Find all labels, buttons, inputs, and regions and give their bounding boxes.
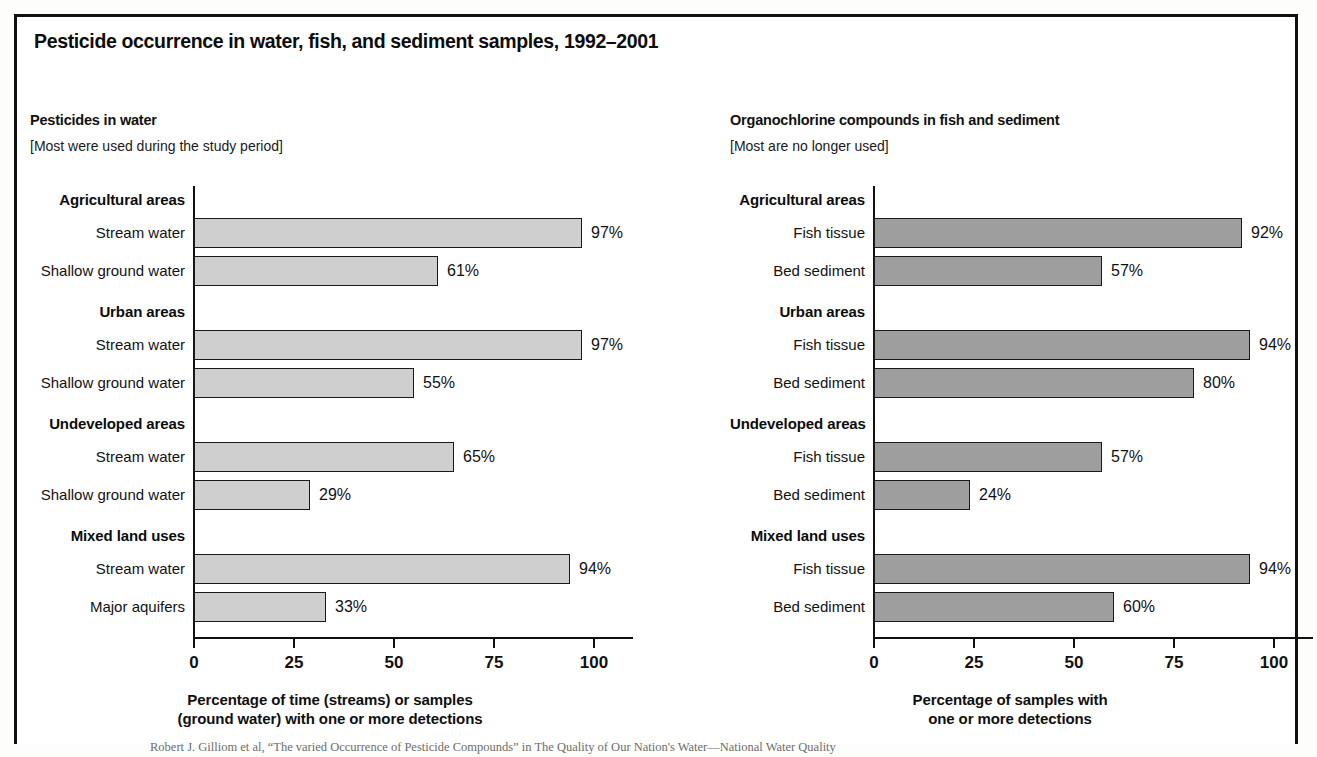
bar — [874, 554, 1250, 584]
bar — [194, 218, 582, 248]
bar-value-label: 97% — [591, 224, 623, 242]
chart-title: Organochlorine compounds in fish and sed… — [730, 112, 1059, 128]
bar-value-label: 24% — [979, 486, 1011, 504]
bar-value-label: 57% — [1111, 448, 1143, 466]
bar-group-label: Urban areas — [30, 303, 185, 320]
bar-value-label: 33% — [335, 598, 367, 616]
x-axis-tick-label: 50 — [385, 653, 404, 673]
bar — [194, 554, 570, 584]
bar-row-label: Shallow ground water — [30, 374, 185, 391]
bar-group-label: Urban areas — [730, 303, 865, 320]
bar-row-label: Fish tissue — [730, 560, 865, 577]
bar-row-label: Stream water — [30, 336, 185, 353]
bar-group-label: Agricultural areas — [30, 191, 185, 208]
x-axis-tick — [593, 639, 595, 648]
bar-row-label: Fish tissue — [730, 448, 865, 465]
x-axis-caption-line: Percentage of samples with — [740, 690, 1280, 709]
bar-row-label: Shallow ground water — [30, 486, 185, 503]
x-axis-tick — [1173, 639, 1175, 648]
bar-group-label: Agricultural areas — [730, 191, 865, 208]
x-axis-tick-label: 100 — [1260, 653, 1288, 673]
bar — [874, 592, 1114, 622]
bar-group-label: Mixed land uses — [730, 527, 865, 544]
bar-value-label: 55% — [423, 374, 455, 392]
bar — [194, 330, 582, 360]
figure-title: Pesticide occurrence in water, fish, and… — [34, 30, 1134, 53]
bar-row-label: Bed sediment — [730, 262, 865, 279]
bar — [194, 592, 326, 622]
x-axis-tick-label: 50 — [1065, 653, 1084, 673]
bar — [874, 218, 1242, 248]
x-axis-caption: Percentage of samples withone or more de… — [740, 690, 1280, 728]
bar-row-label: Fish tissue — [730, 224, 865, 241]
bar-row-label: Stream water — [30, 224, 185, 241]
bar-row-label: Bed sediment — [730, 486, 865, 503]
bar — [874, 480, 970, 510]
bar-value-label: 57% — [1111, 262, 1143, 280]
x-axis-caption-line: Percentage of time (streams) or samples — [50, 690, 610, 709]
figure-root: Pesticide occurrence in water, fish, and… — [0, 0, 1317, 757]
x-axis-tick — [873, 639, 875, 648]
bar — [194, 442, 454, 472]
x-axis-tick-label: 75 — [485, 653, 504, 673]
x-axis-tick — [973, 639, 975, 648]
x-axis-tick — [193, 639, 195, 648]
bar — [874, 368, 1194, 398]
bar-value-label: 97% — [591, 336, 623, 354]
bar-row-label: Stream water — [30, 448, 185, 465]
bar — [874, 442, 1102, 472]
x-axis-line — [873, 637, 1313, 639]
bar-row-label: Shallow ground water — [30, 262, 185, 279]
bar-group-label: Undeveloped areas — [730, 415, 865, 432]
x-axis-caption-line: one or more detections — [740, 709, 1280, 728]
bar — [194, 256, 438, 286]
bar-row-label: Bed sediment — [730, 374, 865, 391]
bar-row-label: Fish tissue — [730, 336, 865, 353]
bar-value-label: 94% — [1259, 336, 1291, 354]
bar-value-label: 92% — [1251, 224, 1283, 242]
x-axis-tick — [393, 639, 395, 648]
x-axis-caption: Percentage of time (streams) or samples(… — [50, 690, 610, 728]
bar — [194, 368, 414, 398]
bar — [874, 330, 1250, 360]
x-axis-line — [193, 637, 633, 639]
x-axis-tick-label: 75 — [1165, 653, 1184, 673]
x-axis-tick-label: 25 — [965, 653, 984, 673]
bar-value-label: 65% — [463, 448, 495, 466]
bar-group-label: Undeveloped areas — [30, 415, 185, 432]
bar-value-label: 94% — [1259, 560, 1291, 578]
x-axis-tick — [1073, 639, 1075, 648]
bar-row-label: Stream water — [30, 560, 185, 577]
x-axis-tick-label: 0 — [869, 653, 878, 673]
x-axis-tick — [493, 639, 495, 648]
x-axis-caption-line: (ground water) with one or more detectio… — [50, 709, 610, 728]
bar-row-label: Bed sediment — [730, 598, 865, 615]
x-axis-tick — [293, 639, 295, 648]
bar-value-label: 94% — [579, 560, 611, 578]
bar-group-label: Mixed land uses — [30, 527, 185, 544]
chart-subtitle: [Most were used during the study period] — [30, 138, 283, 154]
x-axis-tick-label: 0 — [189, 653, 198, 673]
bar — [874, 256, 1102, 286]
bar-value-label: 80% — [1203, 374, 1235, 392]
bar-value-label: 29% — [319, 486, 351, 504]
bar-value-label: 61% — [447, 262, 479, 280]
bar — [194, 480, 310, 510]
x-axis-tick — [1273, 639, 1275, 648]
x-axis-tick-label: 25 — [285, 653, 304, 673]
bar-row-label: Major aquifers — [30, 598, 185, 615]
x-axis-tick-label: 100 — [580, 653, 608, 673]
source-citation: Robert J. Gilliom et al, “The varied Occ… — [150, 740, 1250, 757]
bar-value-label: 60% — [1123, 598, 1155, 616]
chart-subtitle: [Most are no longer used] — [730, 138, 889, 154]
chart-title: Pesticides in water — [30, 112, 157, 128]
